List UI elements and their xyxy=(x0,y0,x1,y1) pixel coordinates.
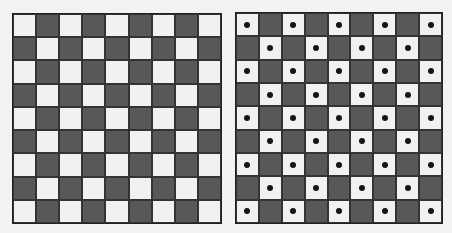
light-square xyxy=(175,130,198,153)
light-square xyxy=(105,153,128,176)
dot-marker-icon xyxy=(336,68,342,74)
light-square xyxy=(105,107,128,130)
light-square xyxy=(396,176,419,199)
light-square xyxy=(198,60,221,83)
dark-square xyxy=(129,153,152,176)
light-square xyxy=(198,107,221,130)
dark-square xyxy=(105,37,128,60)
light-square xyxy=(13,107,36,130)
dot-marker-icon xyxy=(290,162,296,168)
dark-square xyxy=(396,60,419,83)
dark-square xyxy=(396,106,419,129)
light-square xyxy=(282,106,305,129)
dot-marker-icon xyxy=(244,68,250,74)
dark-square xyxy=(350,153,373,176)
light-square xyxy=(396,130,419,153)
dot-marker-icon xyxy=(359,185,365,191)
dot-marker-icon xyxy=(290,208,296,214)
light-square xyxy=(59,200,82,223)
dot-marker-icon xyxy=(359,92,365,98)
dot-marker-icon xyxy=(290,22,296,28)
dark-square xyxy=(198,130,221,153)
dark-square xyxy=(328,83,351,106)
dark-square xyxy=(36,200,59,223)
dark-square xyxy=(198,177,221,200)
dot-marker-icon xyxy=(267,92,273,98)
light-square xyxy=(419,13,442,36)
dark-square xyxy=(59,84,82,107)
dark-square xyxy=(396,13,419,36)
dot-marker-icon xyxy=(428,68,434,74)
dark-square xyxy=(129,14,152,37)
dark-square xyxy=(59,130,82,153)
dark-square xyxy=(36,60,59,83)
dark-square xyxy=(259,60,282,83)
dark-square xyxy=(13,37,36,60)
light-square xyxy=(259,83,282,106)
dark-square xyxy=(175,153,198,176)
light-square xyxy=(396,36,419,59)
dotted-checkerboard xyxy=(235,12,443,224)
light-square xyxy=(282,200,305,223)
light-square xyxy=(152,60,175,83)
dark-square xyxy=(350,200,373,223)
dark-square xyxy=(129,200,152,223)
light-square xyxy=(36,130,59,153)
light-square xyxy=(350,83,373,106)
dark-square xyxy=(350,13,373,36)
dark-square xyxy=(152,130,175,153)
dark-square xyxy=(198,37,221,60)
light-square xyxy=(236,106,259,129)
dot-marker-icon xyxy=(267,138,273,144)
dark-square xyxy=(350,106,373,129)
dark-square xyxy=(13,84,36,107)
dot-marker-icon xyxy=(359,45,365,51)
light-square xyxy=(36,177,59,200)
dark-square xyxy=(419,36,442,59)
light-square xyxy=(105,14,128,37)
dark-square xyxy=(82,153,105,176)
dark-square xyxy=(175,14,198,37)
dot-marker-icon xyxy=(382,162,388,168)
light-square xyxy=(328,60,351,83)
dot-marker-icon xyxy=(336,22,342,28)
dark-square xyxy=(419,130,442,153)
light-square xyxy=(175,37,198,60)
light-square xyxy=(373,106,396,129)
dark-square xyxy=(259,106,282,129)
dark-square xyxy=(175,60,198,83)
light-square xyxy=(105,60,128,83)
dot-marker-icon xyxy=(382,22,388,28)
dark-square xyxy=(419,176,442,199)
light-square xyxy=(396,83,419,106)
dark-square xyxy=(282,176,305,199)
dot-marker-icon xyxy=(428,208,434,214)
dot-marker-icon xyxy=(336,208,342,214)
dot-marker-icon xyxy=(428,162,434,168)
dark-square xyxy=(328,176,351,199)
light-square xyxy=(13,60,36,83)
light-square xyxy=(259,36,282,59)
light-square xyxy=(129,177,152,200)
light-square xyxy=(373,200,396,223)
dark-square xyxy=(259,13,282,36)
dark-square xyxy=(328,130,351,153)
dot-marker-icon xyxy=(244,115,250,121)
light-square xyxy=(175,84,198,107)
light-square xyxy=(13,14,36,37)
dark-square xyxy=(282,83,305,106)
dark-square xyxy=(36,107,59,130)
light-square xyxy=(236,60,259,83)
dot-marker-icon xyxy=(313,92,319,98)
dark-square xyxy=(152,37,175,60)
light-square xyxy=(13,153,36,176)
dark-square xyxy=(59,177,82,200)
dark-square xyxy=(282,36,305,59)
dark-square xyxy=(152,84,175,107)
light-square xyxy=(82,130,105,153)
light-square xyxy=(236,13,259,36)
dark-square xyxy=(129,60,152,83)
light-square xyxy=(36,37,59,60)
dot-marker-icon xyxy=(244,22,250,28)
dark-square xyxy=(373,176,396,199)
